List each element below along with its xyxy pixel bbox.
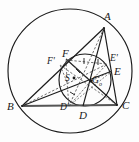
vertex-A-dot: [103, 27, 105, 29]
vertex-C-dot: [116, 104, 118, 106]
label-A: A: [104, 11, 111, 22]
chord-F-E-prime: [66, 60, 107, 64]
label-D: D: [79, 110, 87, 121]
label-G-letter: G: [92, 75, 99, 85]
vertex-B-dot: [21, 105, 23, 107]
label-F-prime: F': [47, 57, 55, 67]
label-C: C: [122, 100, 129, 111]
label-B: B: [7, 101, 14, 112]
label-G: Go: [92, 76, 102, 87]
label-E: E: [114, 66, 121, 77]
label-D-prime: D': [60, 103, 69, 113]
point-S-dot: [73, 77, 76, 80]
label-E-prime: E': [110, 54, 118, 64]
label-S: S: [65, 74, 70, 84]
label-F: F: [62, 48, 69, 59]
label-G-subscript: o: [99, 81, 102, 87]
geometry-figure: A B C D D' E E' F F' S Go: [0, 0, 139, 142]
